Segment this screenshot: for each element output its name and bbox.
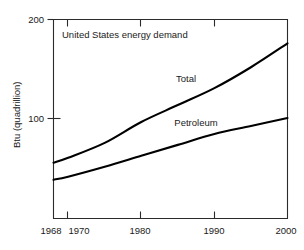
x-tick-label-1970: 1970 — [68, 225, 89, 236]
chart-plot-area: 200 100 1968 1970 1980 1990 2000 Btu (qu… — [0, 0, 304, 250]
x-tick-label-1990: 1990 — [203, 225, 224, 236]
axis-frame — [54, 20, 288, 219]
series-line-total-draw — [54, 43, 288, 162]
series-label-petroleum: Petroleum — [174, 117, 217, 128]
x-tick-label-1980: 1980 — [129, 225, 150, 236]
energy-demand-chart-figure: 200 100 1968 1970 1980 1990 2000 Btu (qu… — [0, 0, 304, 250]
y-axis-title: Btu (quadrillion) — [11, 81, 22, 148]
chart-note: United States energy demand — [62, 29, 188, 40]
x-tick-label-1968: 1968 — [40, 225, 61, 236]
series-label-total: Total — [176, 73, 196, 84]
y-tick-label-100: 100 — [28, 113, 44, 124]
y-tick-label-200: 200 — [28, 14, 44, 25]
x-tick-label-2000: 2000 — [275, 225, 296, 236]
